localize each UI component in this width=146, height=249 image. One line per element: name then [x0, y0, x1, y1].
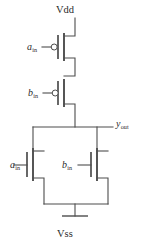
output-label-sub: out: [121, 123, 129, 130]
schematic-canvas: Vdd Vss ain bin ain bin yout: [0, 0, 146, 249]
output-label: yout: [116, 119, 128, 129]
vdd-rail-wire: [64, 18, 75, 36]
nmos-b-input-label: bin: [62, 160, 72, 170]
pmos-a-input-label: ain: [27, 42, 37, 52]
pmos-b-device: [43, 79, 75, 127]
pmos-b-inversion-bubble: [52, 90, 58, 96]
pmos-b-input-sub: in: [33, 92, 38, 99]
output-label-base: y: [116, 118, 120, 129]
vss-rail-wire: [44, 204, 108, 216]
nmos-b-device: [78, 148, 108, 204]
pmos-b-input-label: bin: [28, 88, 38, 98]
vdd-label: Vdd: [56, 5, 74, 16]
vss-label: Vss: [57, 229, 73, 240]
output-node-wire: [33, 127, 113, 148]
nmos-a-input-sub: in: [15, 164, 20, 171]
pmos-a-inversion-bubble: [51, 44, 57, 50]
pmos-a-input-sub: in: [32, 46, 37, 53]
nmos-a-device: [14, 148, 44, 204]
nmos-a-input-label: ain: [10, 160, 20, 170]
nmos-b-input-sub: in: [67, 164, 72, 171]
pmos-a-device: [42, 33, 75, 76]
